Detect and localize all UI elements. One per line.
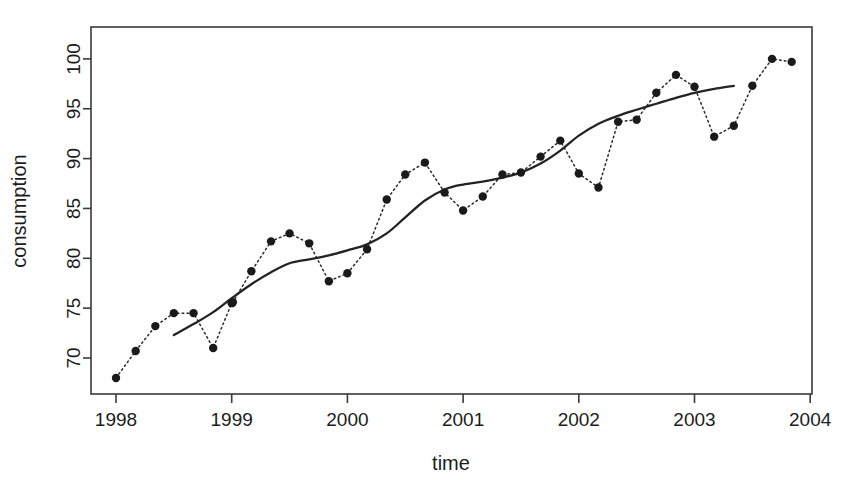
data-point: [748, 82, 756, 90]
data-point: [343, 269, 351, 277]
smoothed-trend-line: [174, 86, 734, 335]
data-point: [401, 170, 409, 178]
y-tick-label: 90: [63, 148, 84, 169]
data-point: [189, 309, 197, 317]
data-point: [325, 277, 333, 285]
y-tick-label: 75: [63, 298, 84, 319]
data-point: [536, 152, 544, 160]
data-point: [440, 188, 448, 196]
data-point: [479, 192, 487, 200]
data-point: [209, 344, 217, 352]
data-point: [594, 183, 602, 191]
y-tick-label: 85: [63, 198, 84, 219]
data-point: [768, 55, 776, 63]
data-point: [112, 374, 120, 382]
y-axis-ticks: 707580859095100: [63, 43, 91, 369]
data-point: [285, 229, 293, 237]
data-point: [672, 71, 680, 79]
data-point: [575, 169, 583, 177]
y-tick-label: 100: [63, 43, 84, 75]
data-point: [229, 298, 237, 306]
plot-frame: [91, 27, 812, 394]
data-point: [267, 237, 275, 245]
data-point: [556, 136, 564, 144]
data-point: [730, 122, 738, 130]
data-point: [614, 118, 622, 126]
x-axis-title: time: [432, 452, 470, 474]
data-point: [710, 132, 718, 140]
x-tick-label: 2004: [789, 409, 832, 430]
data-point: [517, 168, 525, 176]
data-point: [305, 239, 313, 247]
y-tick-label: 95: [63, 98, 84, 119]
x-tick-label: 2001: [442, 409, 484, 430]
data-point: [787, 58, 795, 66]
x-tick-label: 2000: [326, 409, 368, 430]
data-point: [459, 206, 467, 214]
data-point: [131, 347, 139, 355]
figure-container: 707580859095100 199819992000200120022003…: [0, 0, 855, 490]
y-tick-label: 80: [63, 248, 84, 269]
data-point: [151, 322, 159, 330]
y-tick-label: 70: [63, 347, 84, 368]
x-tick-label: 2002: [558, 409, 600, 430]
data-point: [652, 89, 660, 97]
consumption-time-scatter-plot: 707580859095100 199819992000200120022003…: [0, 0, 855, 490]
data-point-markers: [112, 55, 796, 382]
x-axis-ticks: 1998199920002001200220032004: [95, 394, 832, 430]
data-point: [170, 309, 178, 317]
data-point: [690, 83, 698, 91]
x-tick-label: 1998: [95, 409, 137, 430]
data-point: [247, 267, 255, 275]
data-point: [632, 116, 640, 124]
x-tick-label: 1999: [211, 409, 253, 430]
data-point: [383, 195, 391, 203]
data-point: [363, 245, 371, 253]
y-axis-title: consumption: [8, 154, 30, 267]
data-point: [421, 158, 429, 166]
x-tick-label: 2003: [673, 409, 715, 430]
data-point: [498, 170, 506, 178]
observed-series-dotted-line: [116, 59, 792, 378]
